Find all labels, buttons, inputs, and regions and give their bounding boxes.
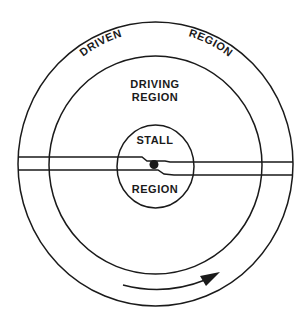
stall-region-label: REGION xyxy=(132,183,178,195)
driving-label: DRIVING xyxy=(130,78,179,90)
driving-region-label: REGION xyxy=(132,91,178,103)
clockwise-arrow-icon xyxy=(123,272,220,289)
band-bottom-line xyxy=(18,170,293,175)
center-dot xyxy=(150,160,159,169)
regions-diagram: DRIVEN REGION DRIVING REGION STALL REGIO… xyxy=(0,0,304,329)
stall-label: STALL xyxy=(136,134,173,146)
